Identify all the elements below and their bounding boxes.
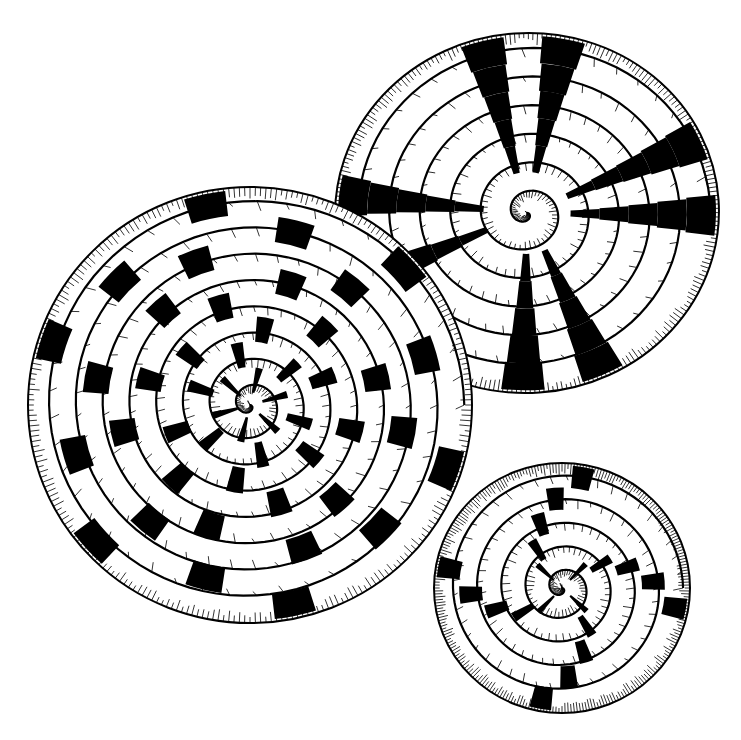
dark-stitch-block [505,333,540,365]
dark-stitch-block [655,199,689,232]
basket-large-left [28,187,472,623]
basket-illustration [0,0,741,740]
dark-stitch-block [683,195,718,238]
basket-small-bottom-right [434,463,690,713]
